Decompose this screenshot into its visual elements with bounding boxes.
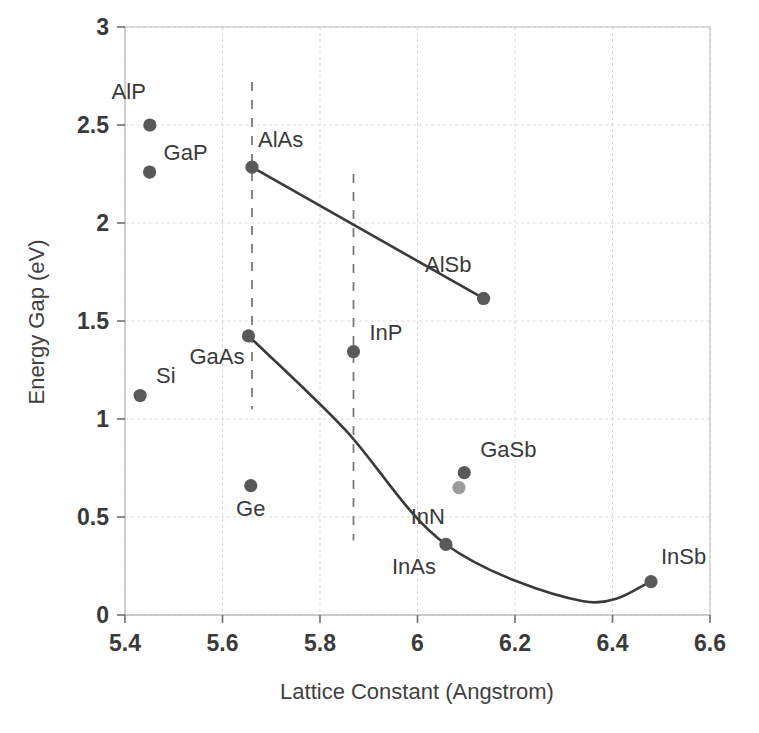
y-tick-label: 0: [96, 602, 109, 628]
data-point-inn: [452, 481, 465, 494]
x-tick-label: 6.2: [499, 630, 531, 656]
label-inn: InN: [411, 504, 445, 529]
data-series-lines: [248, 167, 651, 602]
y-tick-label: 3: [96, 14, 109, 40]
x-tick-label: 5.6: [207, 630, 239, 656]
label-alsb: AlSb: [425, 252, 471, 277]
label-gap: GaP: [164, 140, 208, 165]
x-tick-label: 6.6: [694, 630, 726, 656]
label-gasb: GaSb: [480, 437, 536, 462]
y-tick-label: 2: [96, 210, 109, 236]
x-tick-label: 6: [411, 630, 424, 656]
data-point-gasb: [458, 466, 471, 479]
x-axis-title: Lattice Constant (Angstrom): [280, 679, 554, 704]
label-ge: Ge: [236, 496, 265, 521]
data-point-labels: AlPGaPAlAsGaAsAlSbInPSiGeGaSbInNInAsInSb: [112, 79, 707, 579]
y-tick-label: 1.5: [77, 308, 109, 334]
y-tick-label: 0.5: [77, 504, 109, 530]
data-point-gaas: [242, 329, 255, 342]
series-gaas-inas-insb-alloy-curve: [248, 336, 651, 602]
data-point-alp: [143, 118, 156, 131]
y-axis-ticks: 00.511.522.53: [77, 14, 125, 628]
data-point-insb: [644, 575, 657, 588]
data-point-alas: [245, 161, 258, 174]
label-gaas: GaAs: [189, 344, 244, 369]
x-axis-ticks: 5.45.65.866.26.46.6: [109, 615, 726, 656]
data-point-inas: [439, 538, 452, 551]
label-inp: InP: [369, 320, 402, 345]
series-alas-alsb-alloy-line: [252, 167, 484, 298]
label-si: Si: [156, 363, 176, 388]
chart-canvas: 00.511.522.53 5.45.65.866.26.46.6 AlPGaP…: [0, 0, 759, 733]
y-tick-label: 1: [96, 406, 109, 432]
data-point-si: [134, 389, 147, 402]
x-tick-label: 6.4: [597, 630, 629, 656]
data-point-inp: [347, 345, 360, 358]
data-point-alsb: [477, 292, 490, 305]
x-tick-label: 5.8: [304, 630, 336, 656]
label-insb: InSb: [661, 544, 706, 569]
x-tick-label: 5.4: [109, 630, 141, 656]
label-alp: AlP: [112, 79, 146, 104]
label-inas: InAs: [392, 554, 436, 579]
data-point-gap: [143, 165, 156, 178]
label-alas: AlAs: [258, 127, 303, 152]
data-point-ge: [244, 479, 257, 492]
y-axis-title: Energy Gap (eV): [24, 239, 49, 404]
semiconductor-bandgap-chart: 00.511.522.53 5.45.65.866.26.46.6 AlPGaP…: [0, 0, 759, 733]
y-tick-label: 2.5: [77, 112, 109, 138]
